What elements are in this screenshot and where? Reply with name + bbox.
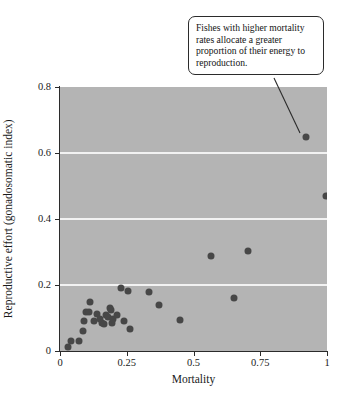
plot-area — [60, 87, 327, 351]
y-tick-label: 0.6 — [38, 148, 51, 159]
data-point — [155, 302, 162, 309]
y-tick-mark — [55, 285, 59, 286]
x-tick-mark — [60, 352, 61, 356]
x-tick-mark — [327, 352, 328, 356]
scatter-plot-figure: 00.20.40.60.8 00.250.50.751 Reproductive… — [0, 0, 338, 399]
data-point — [176, 316, 183, 323]
x-tick-label: 0 — [57, 358, 62, 369]
gridline — [60, 152, 327, 154]
y-tick-label: 0.8 — [38, 82, 51, 93]
data-point — [207, 252, 214, 259]
data-point — [322, 192, 327, 199]
x-tick-label: 0.75 — [251, 358, 269, 369]
gridline — [60, 284, 327, 286]
data-point — [114, 312, 121, 319]
data-point — [75, 338, 82, 345]
x-tick-label: 0.5 — [187, 358, 200, 369]
data-point — [117, 284, 124, 291]
data-point — [126, 326, 133, 333]
y-tick-mark — [55, 351, 59, 352]
data-point — [121, 318, 128, 325]
x-tick-label: 0.25 — [118, 358, 136, 369]
x-tick-mark — [194, 352, 195, 356]
annotation-callout: Fishes with higher mortality rates alloc… — [188, 16, 324, 75]
y-tick-mark — [55, 219, 59, 220]
data-point — [146, 288, 153, 295]
x-tick-mark — [260, 352, 261, 356]
data-point — [125, 287, 132, 294]
y-axis-line — [59, 86, 60, 352]
data-point — [67, 337, 74, 344]
y-tick-label: 0.4 — [38, 214, 51, 225]
y-tick-label: 0.2 — [38, 280, 51, 291]
data-point — [86, 299, 93, 306]
x-axis-title: Mortality — [60, 374, 327, 386]
data-point — [81, 317, 88, 324]
x-tick-label: 1 — [324, 358, 329, 369]
y-tick-mark — [55, 87, 59, 88]
y-axis-title: Reproductive effort (gonadosomatic index… — [0, 87, 16, 351]
data-point — [230, 294, 237, 301]
data-point — [85, 308, 92, 315]
data-point — [245, 248, 252, 255]
y-tick-mark — [55, 153, 59, 154]
y-axis-title-text: Reproductive effort (gonadosomatic index… — [2, 120, 14, 319]
y-tick-label: 0 — [46, 346, 51, 357]
x-tick-mark — [127, 352, 128, 356]
data-point — [80, 327, 87, 334]
gridline — [60, 218, 327, 220]
data-point — [302, 133, 309, 140]
data-point — [101, 320, 108, 327]
